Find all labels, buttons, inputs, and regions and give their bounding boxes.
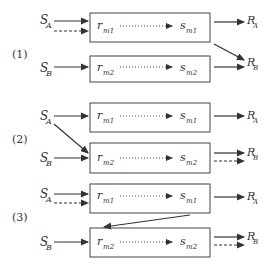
svg-text:A: A <box>45 117 52 126</box>
svg-text:B: B <box>252 238 258 246</box>
svg-text:m1: m1 <box>186 117 197 125</box>
svg-text:A: A <box>252 117 258 125</box>
box-m1-left-label: r m1 <box>97 19 114 35</box>
svg-text:B: B <box>252 64 258 72</box>
input-s-a: S A <box>40 187 52 204</box>
input-s-b: S B <box>40 235 52 252</box>
svg-text:B: B <box>45 243 52 252</box>
svg-text:A: A <box>252 22 258 30</box>
svg-text:m1: m1 <box>103 27 114 35</box>
delegation-diagram: (1) S A S B r m1 s m1 r m2 s m2 <box>0 0 264 267</box>
svg-text:B: B <box>45 69 52 78</box>
svg-text:B: B <box>252 154 258 162</box>
svg-text:m2: m2 <box>103 243 115 251</box>
svg-text:m1: m1 <box>103 117 114 125</box>
arrow-box1-rb <box>214 44 244 60</box>
input-s-a: S A <box>40 109 52 126</box>
box-m1-left-label: r m1 <box>97 189 114 205</box>
box-m1-right-label: s m1 <box>180 189 197 205</box>
arrow-sa-box2 <box>54 124 88 153</box>
box-m2-left-label: r m2 <box>97 61 115 77</box>
svg-text:A: A <box>45 21 52 30</box>
box-m2-left-label: r m2 <box>97 235 115 251</box>
output-r-a: R A <box>246 109 258 125</box>
box-m2-left-label: r m2 <box>97 151 115 167</box>
input-s-a: S A <box>40 13 52 30</box>
output-r-b: R B <box>246 56 258 72</box>
box-m2-right-label: s m2 <box>180 235 198 251</box>
box-m1-right-label: s m1 <box>180 109 197 125</box>
arrow-box1-box2 <box>104 215 190 227</box>
svg-text:m2: m2 <box>103 159 115 167</box>
box-m2-right-label: s m2 <box>180 61 198 77</box>
svg-text:B: B <box>45 159 52 168</box>
box-m1-left-label: r m1 <box>97 109 114 125</box>
panel-label: (3) <box>12 211 28 224</box>
svg-text:m2: m2 <box>186 69 198 77</box>
output-r-a: R A <box>246 14 258 30</box>
svg-text:m2: m2 <box>186 159 198 167</box>
svg-text:A: A <box>252 198 258 206</box>
svg-text:m1: m1 <box>186 27 197 35</box>
svg-text:m2: m2 <box>186 243 198 251</box>
svg-text:m1: m1 <box>186 197 197 205</box>
input-s-b: S B <box>40 61 52 78</box>
output-r-b: R B <box>246 146 258 162</box>
box-m1-right-label: s m1 <box>180 19 197 35</box>
box-m2-right-label: s m2 <box>180 151 198 167</box>
panel-2: (2) S A S B r m1 s m1 r m2 s m2 <box>12 103 258 173</box>
svg-text:m1: m1 <box>103 197 114 205</box>
panel-1: (1) S A S B r m1 s m1 r m2 s m2 <box>12 13 258 82</box>
output-r-b: R B <box>246 230 258 246</box>
input-s-b: S B <box>40 151 52 168</box>
svg-text:A: A <box>45 195 52 204</box>
panel-3: (3) S A S B r m1 s m1 r m2 s <box>12 184 258 257</box>
svg-text:m2: m2 <box>103 69 115 77</box>
panel-label: (1) <box>12 48 28 61</box>
panel-label: (2) <box>12 133 28 146</box>
output-r-a: R A <box>246 190 258 206</box>
